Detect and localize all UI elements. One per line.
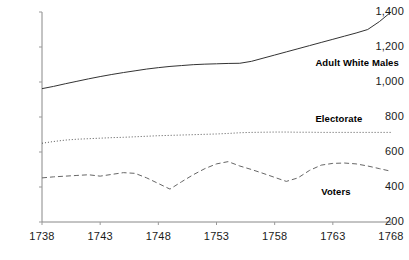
y-tick-label: 400: [366, 181, 404, 192]
data-series-group: [42, 12, 391, 189]
x-tick-label: 1753: [194, 231, 240, 242]
series-line-electorate: [42, 132, 391, 143]
y-tick-label: 1,000: [366, 76, 404, 87]
y-tick-label: 1,400: [366, 6, 404, 17]
y-tick-label: 800: [366, 111, 404, 122]
x-tick-label: 1763: [310, 231, 356, 242]
y-tick-label: 1,200: [366, 41, 404, 52]
y-tick-label: 200: [366, 216, 404, 227]
x-tick-label: 1748: [135, 231, 181, 242]
x-tick-label: 1743: [77, 231, 123, 242]
x-tick-label: 1768: [368, 231, 409, 242]
x-tick-label: 1758: [252, 231, 298, 242]
series-label-adult-white-males: Adult White Males: [315, 57, 399, 68]
series-line-adult-white-males: [42, 12, 391, 89]
x-tick-label: 1738: [19, 231, 65, 242]
series-label-voters: Voters: [321, 186, 350, 197]
series-label-electorate: Electorate: [315, 113, 362, 124]
series-line-voters: [42, 162, 391, 189]
y-tick-label: 600: [366, 146, 404, 157]
